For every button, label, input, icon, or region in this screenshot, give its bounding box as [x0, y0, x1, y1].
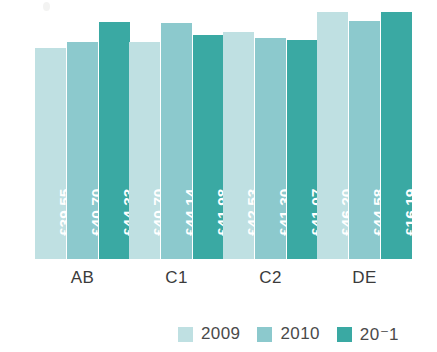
bar-group: £42.53£41.30£41.07 [223, 0, 318, 259]
legend-label: 2009 [201, 324, 240, 344]
bar[interactable]: £41.30 [255, 38, 286, 259]
bar-group: £46.20£44.58£16.19 [317, 0, 412, 259]
bar[interactable]: £44.58 [349, 21, 380, 259]
bar-chart: £39.55£40.70£44.33£40.70£44.14£41.98£42.… [0, 0, 437, 352]
bar[interactable]: £42.53 [223, 32, 254, 259]
legend-swatch [178, 327, 193, 342]
legend-swatch [257, 327, 272, 342]
legend-label: 2010 [280, 324, 319, 344]
bar-group: £40.70£44.14£41.98 [129, 0, 224, 259]
legend-item[interactable]: 2009 [178, 324, 240, 344]
bar[interactable]: £40.70 [67, 42, 98, 259]
category-axis: ABC1C2DE [0, 262, 437, 296]
bar-value-label: £16.19 [403, 188, 419, 235]
legend-label: 20⁻1 [360, 324, 399, 345]
plot-area: £39.55£40.70£44.33£40.70£44.14£41.98£42.… [0, 0, 437, 259]
bar-group: £39.55£40.70£44.33 [35, 0, 130, 259]
bar[interactable]: £44.14 [161, 23, 192, 259]
legend-swatch [337, 327, 352, 342]
bar[interactable]: £16.19 [381, 12, 412, 259]
bar[interactable]: £39.55 [35, 48, 66, 259]
bar[interactable]: £44.33 [99, 22, 130, 259]
category-label-de: DE [305, 268, 425, 288]
bar[interactable]: £41.98 [193, 35, 224, 259]
legend-item[interactable]: 20⁻1 [337, 324, 399, 345]
bar[interactable]: £40.70 [129, 42, 160, 259]
bar[interactable]: £46.20 [317, 12, 348, 259]
chart-legend: 2009201020⁻1 [178, 322, 416, 346]
bar[interactable]: £41.07 [287, 40, 318, 259]
legend-item[interactable]: 2010 [257, 324, 319, 344]
